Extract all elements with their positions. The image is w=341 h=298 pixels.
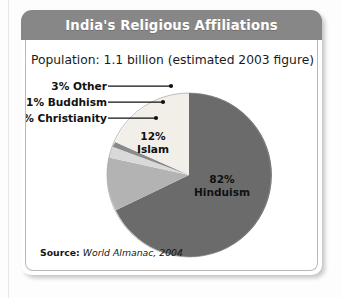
pie-chart: 3% Other 1% Buddhism 2% Christianity 12%… — [26, 40, 318, 271]
chart-source-key: Source: — [40, 247, 80, 258]
page-title: India's Religious Affiliations — [65, 18, 277, 33]
pie-label-hinduism-name: Hinduism — [194, 185, 250, 198]
pie-label-buddhism: 1% Buddhism — [26, 96, 107, 108]
chart-source: Source: World Almanac, 2004 — [40, 247, 183, 258]
pie-label-islam-pct: 12% — [137, 130, 169, 143]
pie-label-islam: 12% Islam — [137, 130, 169, 155]
page-margin-rule — [8, 0, 9, 298]
chart-source-value: World Almanac, 2004 — [83, 247, 183, 258]
chart-title-bar: India's Religious Affiliations — [21, 10, 322, 40]
pie-label-hinduism: 82% Hinduism — [194, 173, 250, 198]
pie-chart-svg — [26, 40, 318, 271]
pie-label-islam-name: Islam — [137, 142, 169, 155]
leader-dot-other — [169, 84, 173, 88]
pie-label-other: 3% Other — [51, 80, 107, 92]
leader-dot-christianity — [154, 116, 158, 120]
chart-card-body: Population: 1.1 billion (estimated 2003 … — [25, 40, 318, 271]
chart-card: India's Religious Affiliations Populatio… — [21, 10, 322, 275]
pie-label-christianity: 2% Christianity — [25, 112, 107, 124]
leader-dot-buddhism — [161, 100, 165, 104]
pie-label-hinduism-pct: 82% — [194, 173, 250, 186]
